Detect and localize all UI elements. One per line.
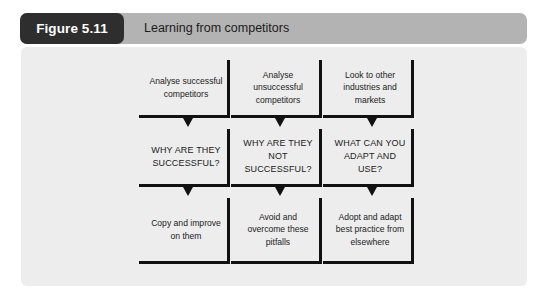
node-right-rule bbox=[411, 129, 414, 187]
arrow-down-icon bbox=[183, 187, 193, 196]
flowchart-node-label: Look to other industries and markets bbox=[329, 60, 411, 115]
node-right-rule bbox=[227, 198, 230, 264]
flowchart-column-unsuccessful-competitors: Analyse unsuccessful competitors WHY ARE… bbox=[237, 60, 322, 275]
arrow-down-icon bbox=[367, 187, 377, 196]
flowchart-node-label: WHY ARE THEY NOT SUCCESSFUL? bbox=[237, 129, 319, 184]
figure-title: Learning from competitors bbox=[144, 13, 289, 44]
node-right-rule bbox=[411, 60, 414, 118]
node-right-rule bbox=[411, 198, 414, 264]
flowchart-node-label: WHAT CAN YOU ADAPT AND USE? bbox=[329, 129, 411, 184]
flowchart-node: Analyse successful competitors bbox=[145, 60, 230, 118]
flowchart-node-label: WHY ARE THEY SUCCESSFUL? bbox=[145, 129, 227, 184]
flowchart-node: Look to other industries and markets bbox=[329, 60, 414, 118]
arrow-down-icon bbox=[367, 118, 377, 127]
flowchart-node: Avoid and overcome these pitfalls bbox=[237, 198, 322, 264]
arrow-down-icon bbox=[275, 118, 285, 127]
flowchart-node-label: Adopt and adapt best practice from elsew… bbox=[329, 198, 411, 261]
figure-number-label: Figure 5.11 bbox=[36, 22, 108, 36]
node-bottom-rule bbox=[231, 261, 322, 264]
flowchart-node-label: Analyse successful competitors bbox=[145, 60, 227, 115]
flowchart-node: WHY ARE THEY SUCCESSFUL? bbox=[145, 129, 230, 187]
flowchart-node: WHY ARE THEY NOT SUCCESSFUL? bbox=[237, 129, 322, 187]
node-right-rule bbox=[227, 60, 230, 118]
flowchart-node: Adopt and adapt best practice from elsew… bbox=[329, 198, 414, 264]
node-bottom-rule bbox=[139, 261, 230, 264]
flowchart-node: Analyse unsuccessful competitors bbox=[237, 60, 322, 118]
flowchart-diagram: Analyse successful competitors WHY ARE T… bbox=[145, 60, 421, 275]
figure-panel: Analyse successful competitors WHY ARE T… bbox=[21, 47, 527, 286]
node-right-rule bbox=[319, 60, 322, 118]
figure-number-badge: Figure 5.11 bbox=[20, 13, 124, 44]
flowchart-node-label: Analyse unsuccessful competitors bbox=[237, 60, 319, 115]
figure-header: Figure 5.11 Learning from competitors bbox=[20, 13, 527, 44]
arrow-down-icon bbox=[275, 187, 285, 196]
flowchart-column-other-industries: Look to other industries and markets WHA… bbox=[329, 60, 414, 275]
node-right-rule bbox=[319, 129, 322, 187]
flowchart-column-successful-competitors: Analyse successful competitors WHY ARE T… bbox=[145, 60, 230, 275]
node-bottom-rule bbox=[323, 261, 414, 264]
node-right-rule bbox=[227, 129, 230, 187]
flowchart-node: Copy and improve on them bbox=[145, 198, 230, 264]
arrow-down-icon bbox=[183, 118, 193, 127]
flowchart-node-label: Avoid and overcome these pitfalls bbox=[237, 198, 319, 261]
node-right-rule bbox=[319, 198, 322, 264]
flowchart-node: WHAT CAN YOU ADAPT AND USE? bbox=[329, 129, 414, 187]
flowchart-node-label: Copy and improve on them bbox=[145, 198, 227, 261]
